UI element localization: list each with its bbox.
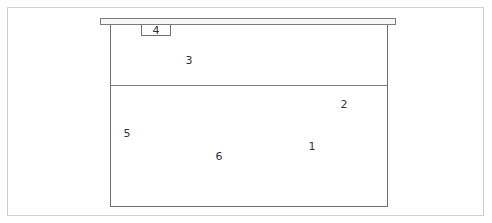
top-bar [100, 18, 396, 25]
label-3: 3 [186, 55, 193, 66]
label-5: 5 [124, 128, 131, 139]
horizontal-divider [110, 85, 388, 86]
label-6: 6 [216, 151, 223, 162]
label-4: 4 [153, 25, 160, 36]
label-2: 2 [341, 99, 348, 110]
main-box [110, 25, 388, 207]
label-1: 1 [309, 141, 316, 152]
